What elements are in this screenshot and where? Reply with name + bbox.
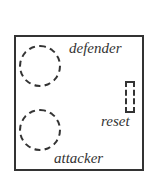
attacker-zone-circle — [19, 109, 61, 151]
reset-zone-rect — [125, 81, 135, 113]
attacker-label: attacker — [54, 151, 103, 166]
reset-label: reset — [101, 114, 130, 129]
defender-label: defender — [69, 41, 121, 56]
diagram-canvas: defender reset attacker — [0, 0, 152, 183]
defender-zone-circle — [19, 45, 61, 87]
